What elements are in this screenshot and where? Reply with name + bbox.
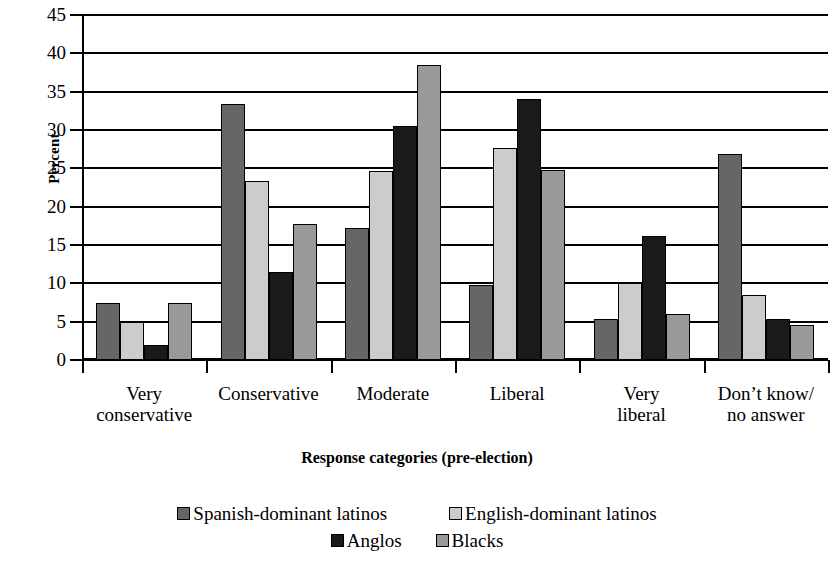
bar (120, 322, 144, 360)
y-tick-label: 45 (26, 5, 66, 24)
x-tick-mark (82, 360, 84, 373)
x-category-label-line: Moderate (331, 383, 455, 404)
y-tick-label: 25 (26, 158, 66, 177)
bar (469, 285, 493, 360)
legend-swatch (331, 534, 344, 547)
bar (742, 295, 766, 360)
y-tick-label: 10 (26, 273, 66, 292)
y-tick-mark (70, 359, 82, 361)
y-tick-mark (70, 321, 82, 323)
legend-swatch (436, 534, 449, 547)
bar (144, 345, 168, 360)
bar-chart: Percent VeryconservativeConservativeMode… (0, 0, 834, 573)
y-tick-mark (70, 206, 82, 208)
legend-item: Spanish-dominant latinos (177, 504, 387, 523)
bar (168, 303, 192, 361)
y-tick-label: 40 (26, 43, 66, 62)
bar (766, 319, 790, 360)
x-category-label-line: no answer (704, 404, 828, 425)
y-tick-label: 15 (26, 235, 66, 254)
y-tick-label: 20 (26, 197, 66, 216)
x-category-label: Veryliberal (579, 383, 703, 426)
x-tick-mark (704, 360, 706, 373)
legend-item: English-dominant latinos (449, 504, 657, 523)
bar (369, 171, 393, 360)
y-tick-mark (70, 14, 82, 16)
bar (618, 283, 642, 360)
bar (245, 181, 269, 360)
y-tick-mark (70, 91, 82, 93)
bar (293, 224, 317, 360)
x-category-label-line: Liberal (455, 383, 579, 404)
legend-swatch (449, 507, 462, 520)
legend-label: Spanish-dominant latinos (193, 504, 387, 523)
x-tick-mark (331, 360, 333, 373)
x-category-label: Moderate (331, 383, 455, 404)
y-tick-mark (70, 52, 82, 54)
legend-swatch (177, 507, 190, 520)
bar (345, 228, 369, 360)
legend-label: Blacks (452, 531, 504, 550)
x-tick-mark (579, 360, 581, 373)
x-category-label-line: conservative (82, 404, 206, 425)
x-category-label: Conservative (206, 383, 330, 404)
x-tick-mark (455, 360, 457, 373)
x-category-label: Don’t know/no answer (704, 383, 828, 426)
bar (417, 65, 441, 360)
x-category-label-line: Conservative (206, 383, 330, 404)
bar (666, 314, 690, 360)
y-tick-label: 35 (26, 82, 66, 101)
bar (517, 99, 541, 360)
x-category-label-line: Very (82, 383, 206, 404)
bar (790, 325, 814, 360)
legend-label: English-dominant latinos (465, 504, 657, 523)
x-category-label-line: Don’t know/ (704, 383, 828, 404)
legend-item: Anglos (331, 531, 402, 550)
bar (493, 148, 517, 360)
y-tick-label: 5 (26, 312, 66, 331)
bar (718, 154, 742, 360)
bar (96, 303, 120, 361)
bar (269, 272, 293, 360)
legend-row: AnglosBlacks (0, 527, 834, 554)
bar (541, 170, 565, 360)
legend-item: Blacks (436, 531, 504, 550)
y-tick-label: 30 (26, 120, 66, 139)
x-tick-mark (206, 360, 208, 373)
y-tick-mark (70, 167, 82, 169)
y-tick-mark (70, 282, 82, 284)
x-category-label: Liberal (455, 383, 579, 404)
y-tick-mark (70, 129, 82, 131)
bar (642, 236, 666, 360)
x-category-label: Veryconservative (82, 383, 206, 426)
x-tick-mark (828, 360, 830, 373)
x-axis-title: Response categories (pre-election) (0, 449, 834, 467)
bar (393, 126, 417, 360)
bar (221, 104, 245, 360)
x-category-label-line: liberal (579, 404, 703, 425)
bar (594, 319, 618, 360)
legend-row: Spanish-dominant latinosEnglish-dominant… (0, 500, 834, 527)
chart-legend: Spanish-dominant latinosEnglish-dominant… (0, 500, 834, 554)
bars-layer (82, 15, 828, 360)
y-tick-mark (70, 244, 82, 246)
legend-label: Anglos (347, 531, 402, 550)
y-tick-label: 0 (26, 350, 66, 369)
x-category-label-line: Very (579, 383, 703, 404)
